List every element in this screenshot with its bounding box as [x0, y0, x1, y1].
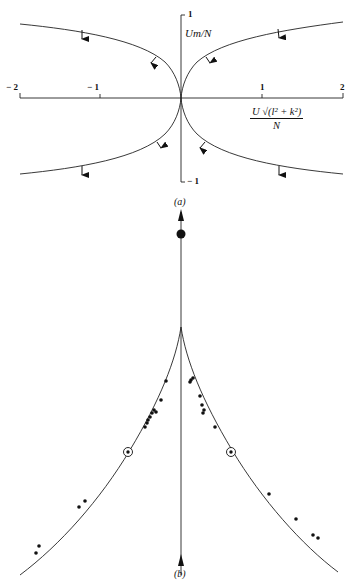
arrow-icon	[200, 142, 205, 148]
arrow-up-icon	[178, 554, 184, 566]
arrow-up-icon	[178, 209, 184, 221]
circled-points	[124, 448, 236, 457]
curve-lower-left	[20, 98, 181, 174]
axis-large-dot	[177, 230, 186, 239]
y-axis-label: Um/N	[185, 27, 211, 39]
arrow-icon	[278, 29, 279, 38]
y-tick-label-bottom: − 1	[187, 176, 199, 186]
x-tick-label-2: 2	[340, 82, 345, 92]
x-axis-label: U √(l² + k²) N	[250, 106, 303, 131]
data-points-left	[34, 379, 168, 555]
y-tick-label-top: 1	[188, 9, 193, 19]
x-axis-label-denominator: N	[250, 119, 303, 131]
x-axis-label-numerator: U √(l² + k²)	[250, 106, 303, 119]
panel-b-label: (b)	[174, 568, 186, 579]
x-tick-label-1: 1	[260, 82, 265, 92]
data-points-right	[188, 376, 320, 540]
arrow-icon	[151, 57, 156, 63]
panel-b	[20, 209, 338, 575]
x-tick-label-minus-2: − 2	[6, 82, 18, 92]
arrow-icon	[157, 142, 161, 148]
figure-canvas	[0, 0, 354, 582]
panel-a	[20, 15, 343, 182]
x-tick-label-minus-1: − 1	[87, 82, 99, 92]
panel-a-label: (a)	[174, 196, 186, 207]
arrow-icon	[206, 57, 210, 63]
curve-upper-left	[20, 24, 181, 98]
curve-left	[20, 327, 181, 575]
